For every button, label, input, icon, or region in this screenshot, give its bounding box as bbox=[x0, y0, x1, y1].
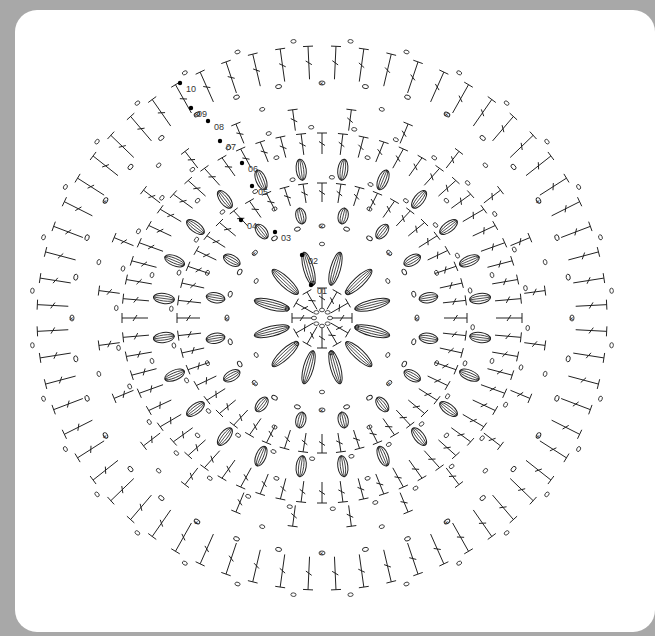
round-label-10: 10 bbox=[186, 84, 196, 94]
svg-text:×: × bbox=[102, 432, 107, 441]
round-label-5: 05 bbox=[258, 187, 268, 197]
round-3: ×××××××× bbox=[224, 222, 419, 415]
slip-stitch-icon bbox=[240, 161, 244, 165]
round-8 bbox=[96, 107, 547, 529]
svg-text:×: × bbox=[69, 314, 74, 323]
slip-stitch-icon bbox=[178, 81, 182, 85]
round-label-9: 09 bbox=[197, 109, 207, 119]
slip-stitch-icon bbox=[273, 230, 277, 234]
round-label-2: 02 bbox=[308, 256, 318, 266]
svg-text:×: × bbox=[224, 314, 229, 323]
round-label-4: 04 bbox=[247, 221, 257, 231]
svg-text:×: × bbox=[536, 432, 541, 441]
slip-stitch-icon bbox=[189, 106, 193, 110]
svg-text:×: × bbox=[319, 222, 324, 231]
svg-text:×: × bbox=[102, 197, 107, 206]
svg-text:×: × bbox=[252, 379, 257, 388]
round-5 bbox=[169, 175, 474, 460]
svg-text:×: × bbox=[444, 110, 449, 119]
svg-text:×: × bbox=[319, 79, 324, 88]
round-label-3: 03 bbox=[281, 233, 291, 243]
slip-stitch-icon bbox=[300, 253, 304, 257]
svg-text:×: × bbox=[386, 379, 391, 388]
round-10 bbox=[30, 39, 613, 596]
svg-text:×: × bbox=[319, 549, 324, 558]
round-6 bbox=[150, 155, 495, 481]
slip-stitch-icon bbox=[309, 283, 313, 287]
slip-stitch-icon bbox=[218, 139, 222, 143]
round-label-7: 07 bbox=[226, 142, 236, 152]
svg-text:×: × bbox=[536, 197, 541, 206]
svg-text:×: × bbox=[569, 314, 574, 323]
round-label-6: 06 bbox=[248, 164, 258, 174]
round-2 bbox=[253, 242, 391, 394]
svg-text:×: × bbox=[252, 249, 257, 258]
center-ring bbox=[312, 308, 333, 328]
svg-text:×: × bbox=[194, 518, 199, 527]
slip-stitch-icon bbox=[239, 218, 243, 222]
slip-stitch-icon bbox=[206, 119, 210, 123]
svg-text:×: × bbox=[444, 518, 449, 527]
svg-text:×: × bbox=[319, 406, 324, 415]
slip-stitch-icon bbox=[250, 184, 254, 188]
svg-text:×: × bbox=[386, 249, 391, 258]
svg-text:×: × bbox=[414, 314, 419, 323]
round-label-8: 08 bbox=[214, 122, 224, 132]
round-label-1: 01 bbox=[317, 286, 327, 296]
round-4 bbox=[205, 206, 439, 429]
